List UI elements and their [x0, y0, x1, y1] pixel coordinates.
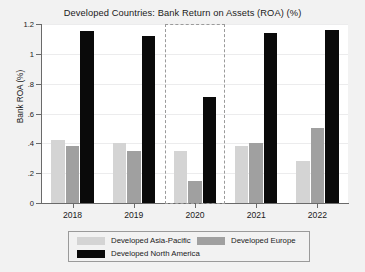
y-tick-label: .4	[8, 139, 34, 148]
legend-label: Developed North America	[111, 249, 200, 258]
x-tick-label: 2019	[109, 210, 159, 220]
bar	[325, 30, 339, 203]
legend-swatch	[77, 250, 105, 258]
y-tick-mark	[36, 203, 41, 204]
bar	[249, 143, 263, 203]
bar	[188, 181, 202, 203]
chart-figure: Developed Countries: Bank Return on Asse…	[0, 0, 365, 272]
bar	[264, 33, 278, 203]
legend-entry[interactable]: Developed Europe	[197, 236, 296, 245]
y-tick-mark	[36, 84, 41, 85]
bar	[66, 146, 80, 203]
chart-title: Developed Countries: Bank Return on Asse…	[0, 8, 365, 18]
legend-label: Developed Europe	[231, 236, 296, 245]
legend-entry[interactable]: Developed North America	[77, 249, 200, 258]
bars-layer	[42, 24, 348, 203]
y-tick-label: .2	[8, 169, 34, 178]
x-tick-label: 2018	[48, 210, 98, 220]
bar	[235, 146, 249, 203]
y-axis-label: Bank ROA (%)	[16, 57, 25, 137]
y-tick-label: 0	[8, 199, 34, 208]
bar	[311, 128, 325, 203]
legend-entry[interactable]: Developed Asia-Pacific	[77, 236, 191, 245]
y-tick-label: 1.2	[8, 20, 34, 29]
legend-swatch	[77, 237, 105, 245]
x-tick-mark	[195, 204, 196, 208]
x-tick-label: 2020	[170, 210, 220, 220]
bar	[142, 36, 156, 203]
bar	[80, 31, 94, 203]
x-tick-label: 2022	[292, 210, 342, 220]
x-tick-mark	[256, 204, 257, 208]
bar	[113, 143, 127, 203]
bar	[51, 140, 65, 203]
y-tick-mark	[36, 114, 41, 115]
x-tick-mark	[317, 204, 318, 208]
x-tick-mark	[73, 204, 74, 208]
legend-label: Developed Asia-Pacific	[111, 236, 191, 245]
x-tick-label: 2021	[231, 210, 281, 220]
y-tick-mark	[36, 54, 41, 55]
y-tick-mark	[36, 24, 41, 25]
bar	[174, 151, 188, 203]
y-tick-mark	[36, 173, 41, 174]
x-tick-mark	[134, 204, 135, 208]
bar	[203, 97, 217, 203]
y-tick-mark	[36, 143, 41, 144]
bar	[127, 151, 141, 203]
chart-legend: Developed Asia-PacificDeveloped EuropeDe…	[68, 231, 310, 262]
legend-swatch	[197, 237, 225, 245]
bar	[296, 161, 310, 203]
